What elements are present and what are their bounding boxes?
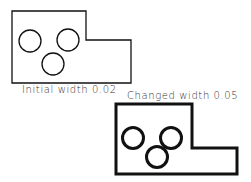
hole-1-initial [19,30,41,52]
outline-changed [116,104,237,174]
hole-3-changed [147,147,168,168]
label-initial-width: Initial width 0.02 [22,84,117,95]
shape-changed [116,104,237,174]
hole-1-changed [123,128,144,149]
hole-3-initial [42,53,64,75]
shape-initial [12,11,131,83]
hole-2-changed [161,128,182,149]
hole-2-initial [57,29,79,51]
label-changed-width: Changed width 0.05 [127,90,238,101]
outline-initial [12,11,131,83]
